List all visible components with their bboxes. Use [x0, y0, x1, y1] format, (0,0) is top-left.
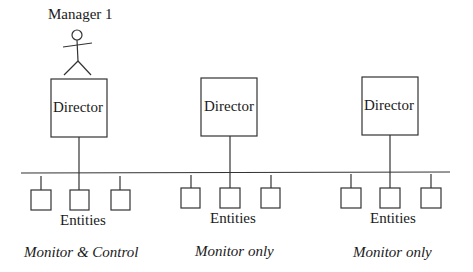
- entity-box: [31, 190, 51, 210]
- director-label-2: Director: [204, 98, 254, 115]
- entities-label-3: Entities: [370, 210, 416, 227]
- manager-stick-figure-icon: [63, 30, 92, 75]
- mode-label-1: Monitor & Control: [24, 244, 138, 261]
- entities-label-1: Entities: [60, 212, 106, 229]
- entity-box: [341, 188, 361, 208]
- mode-label-2: Monitor only: [195, 243, 274, 260]
- entity-box: [111, 190, 130, 210]
- director-label-3: Director: [364, 97, 414, 114]
- entity-box: [261, 188, 280, 208]
- director-label-1: Director: [53, 99, 103, 116]
- entity-box: [70, 190, 89, 210]
- mode-label-3: Monitor only: [353, 244, 432, 261]
- entity-box: [380, 188, 400, 208]
- manager-label: Manager 1: [48, 6, 113, 23]
- entity-box: [220, 188, 240, 208]
- diagram-canvas: [0, 0, 473, 272]
- entities-label-2: Entities: [210, 210, 256, 227]
- entity-box: [421, 188, 441, 208]
- entity-box: [181, 188, 200, 208]
- network-bus: [21, 172, 450, 173]
